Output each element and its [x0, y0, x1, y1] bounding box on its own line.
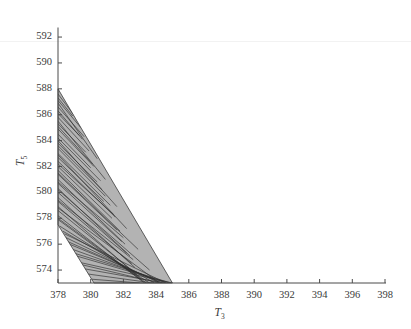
- y-tick-label: 590: [12, 56, 52, 67]
- y-tick-label: 584: [12, 134, 52, 145]
- y-tick-label: 580: [12, 185, 52, 196]
- y-axis-title: T5: [14, 155, 29, 165]
- y-tick-label: 592: [12, 30, 52, 41]
- x-axis-title: T3: [215, 306, 225, 321]
- y-tick-label: 576: [12, 237, 52, 248]
- plot-canvas: [0, 0, 411, 329]
- y-tick-label: 574: [12, 263, 52, 274]
- y-tick-label: 588: [12, 82, 52, 93]
- y-tick-label: 586: [12, 108, 52, 119]
- chart-figure: 574576578580582584586588590592 378380382…: [0, 0, 411, 329]
- x-tick-label: 398: [365, 289, 405, 300]
- y-tick-label: 578: [12, 211, 52, 222]
- shaded-region: [58, 89, 172, 283]
